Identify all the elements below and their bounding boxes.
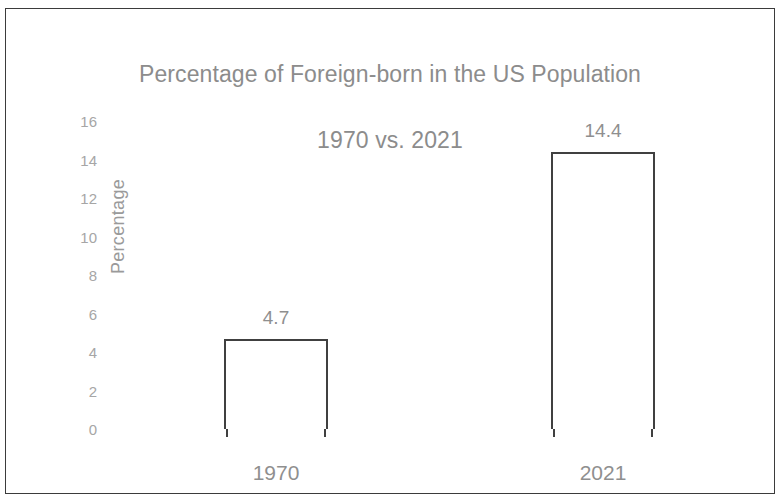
bar-tick-right-2021 (651, 429, 653, 437)
bar-value-1970: 4.7 (263, 308, 289, 327)
y-tick-12: 12 (57, 191, 97, 206)
bar-1970[interactable] (224, 339, 328, 430)
y-tick-16: 16 (57, 114, 97, 129)
chart-title-line-1: Percentage of Foreign-born in the US Pop… (6, 58, 774, 91)
chart-frame: Percentage of Foreign-born in the US Pop… (5, 8, 775, 494)
y-tick-10: 10 (57, 229, 97, 244)
bar-tick-right-1970 (324, 429, 326, 437)
x-label-1970: 1970 (253, 462, 300, 483)
bar-2021[interactable] (551, 152, 655, 429)
y-tick-4: 4 (57, 345, 97, 360)
plot-area: Percentage 16 14 12 10 8 6 4 2 0 4.7 197… (106, 121, 766, 429)
x-label-2021: 2021 (580, 462, 627, 483)
bar-tick-left-2021 (553, 429, 555, 437)
y-tick-6: 6 (57, 306, 97, 321)
y-tick-8: 8 (57, 268, 97, 283)
bar-value-2021: 14.4 (585, 121, 622, 140)
y-axis-title: Percentage (108, 147, 129, 307)
y-tick-2: 2 (57, 383, 97, 398)
y-tick-14: 14 (57, 152, 97, 167)
y-tick-0: 0 (57, 422, 97, 437)
bar-tick-left-1970 (226, 429, 228, 437)
